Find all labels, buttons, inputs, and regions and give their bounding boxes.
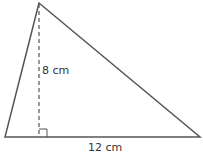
right-angle-marker (39, 129, 47, 137)
height-label: 8 cm (42, 64, 69, 77)
base-label: 12 cm (88, 141, 122, 154)
triangle-diagram: 8 cm 12 cm (0, 0, 203, 155)
triangle (5, 3, 200, 137)
